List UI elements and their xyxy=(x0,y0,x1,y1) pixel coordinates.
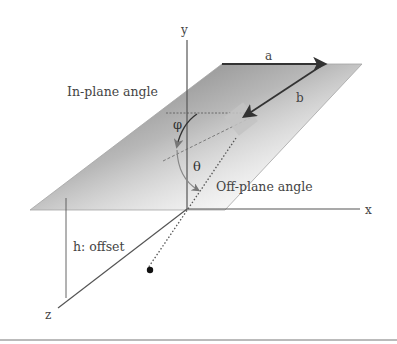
offset-label: h: offset xyxy=(73,239,124,254)
x-axis-label: x xyxy=(365,203,372,217)
z-axis-label: z xyxy=(45,308,51,322)
phi-label: φ xyxy=(173,117,182,132)
in-plane-angle-label: In-plane angle xyxy=(67,84,158,99)
target-point xyxy=(147,267,153,273)
a-label: a xyxy=(265,49,272,63)
theta-label: θ xyxy=(193,159,201,174)
y-axis-label: y xyxy=(180,23,188,37)
off-plane-angle-label: Off-plane angle xyxy=(216,179,313,194)
b-label: b xyxy=(296,91,304,105)
coordinate-diagram: y x z a b In-plane angle Off-plane angle… xyxy=(0,0,397,344)
z-axis xyxy=(58,209,187,308)
